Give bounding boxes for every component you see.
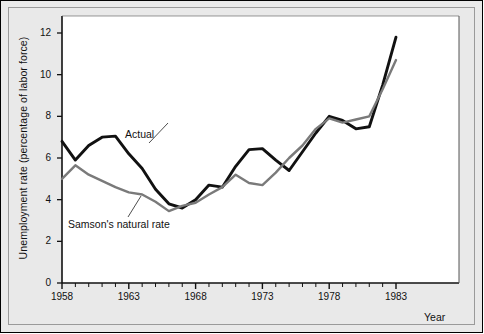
annotation-leader-line [149,123,168,143]
x-axis-tick-marks [62,283,396,289]
annotation-leader-lines [128,123,168,217]
chart-plot [0,0,484,334]
annotation-leader-line [128,196,141,217]
data-series-lines [62,37,396,211]
chart-figure: Unemployment rate (percentage of labor f… [0,0,484,334]
